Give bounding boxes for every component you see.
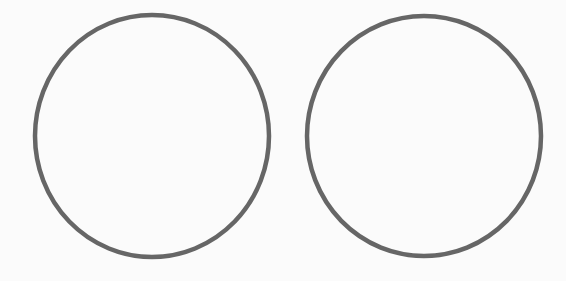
right-circle	[307, 16, 541, 256]
left-circle	[35, 15, 269, 257]
drawing-canvas	[0, 0, 566, 281]
